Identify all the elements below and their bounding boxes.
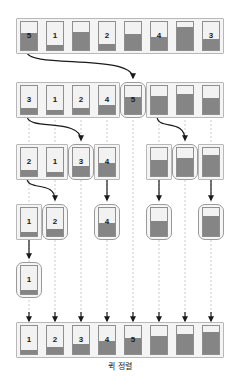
bar-cell: 1 bbox=[20, 207, 38, 237]
bar-fill bbox=[203, 216, 219, 236]
bar-cell bbox=[150, 147, 168, 177]
bar-cell: 4 bbox=[150, 21, 168, 51]
bar-cell bbox=[202, 147, 220, 177]
bar-value-label: 2 bbox=[47, 336, 63, 344]
bar-value-label: 2 bbox=[99, 32, 115, 40]
bar-cell: 2 bbox=[46, 325, 64, 355]
bar-value-label: 1 bbox=[21, 336, 37, 344]
bar-cell bbox=[150, 85, 168, 115]
bar-fill bbox=[177, 27, 193, 50]
bar-cell: 2 bbox=[72, 85, 90, 115]
bar-fill bbox=[73, 166, 89, 176]
bar-value-label: 4 bbox=[99, 336, 115, 344]
bar-fill bbox=[47, 45, 63, 50]
bar-fill bbox=[151, 160, 167, 176]
bar-fill bbox=[203, 39, 219, 50]
bar-cell bbox=[176, 325, 194, 355]
bar-fill bbox=[151, 96, 167, 114]
bar-fill bbox=[47, 172, 63, 176]
bar-value-label: 2 bbox=[47, 218, 63, 226]
bar-fill bbox=[21, 350, 37, 354]
bar-value-label: 1 bbox=[47, 158, 63, 166]
bar-fill bbox=[47, 347, 63, 354]
bar-value-label: 2 bbox=[73, 96, 89, 104]
bar-fill bbox=[21, 108, 37, 114]
bar-cell: 3 bbox=[202, 21, 220, 51]
bar-fill bbox=[99, 44, 115, 50]
bar-cell: 2 bbox=[98, 21, 116, 51]
quicksort-diagram: 51243312452134124112345 퀵 정렬 bbox=[0, 0, 240, 388]
bar-fill bbox=[73, 344, 89, 354]
bar-cell: 3 bbox=[20, 85, 38, 115]
bar-cell: 4 bbox=[98, 147, 116, 177]
bar-value-label: 4 bbox=[151, 32, 167, 40]
bar-fill bbox=[73, 108, 89, 114]
bar-cell bbox=[124, 21, 142, 51]
bar-value-label: 1 bbox=[21, 276, 37, 284]
bar-value-label: 4 bbox=[99, 96, 115, 104]
bar-fill bbox=[203, 155, 219, 176]
bar-cell bbox=[176, 85, 194, 115]
bar-cell bbox=[176, 21, 194, 51]
bar-value-label: 2 bbox=[21, 158, 37, 166]
bar-fill bbox=[47, 110, 63, 114]
bar-cell: 1 bbox=[46, 147, 64, 177]
bar-cell: 3 bbox=[72, 147, 90, 177]
bar-fill bbox=[177, 158, 193, 176]
bar-fill bbox=[151, 336, 167, 354]
bar-fill bbox=[47, 229, 63, 236]
bar-value-label: 1 bbox=[47, 32, 63, 40]
bar-cell bbox=[202, 85, 220, 115]
bar-value-label: 1 bbox=[21, 218, 37, 226]
bar-fill bbox=[99, 105, 115, 114]
bar-cell: 1 bbox=[46, 85, 64, 115]
bar-cell: 1 bbox=[20, 265, 38, 295]
bar-cell: 2 bbox=[46, 207, 64, 237]
bar-value-label: 5 bbox=[125, 336, 141, 344]
bar-value-label: 3 bbox=[21, 96, 37, 104]
bar-value-label: 3 bbox=[203, 32, 219, 40]
bar-fill bbox=[151, 221, 167, 236]
bar-cell bbox=[150, 325, 168, 355]
bar-cell: 2 bbox=[20, 147, 38, 177]
bar-cell: 4 bbox=[98, 207, 116, 237]
bar-fill bbox=[125, 34, 141, 50]
bar-cell bbox=[202, 207, 220, 237]
arrow-pivot-2b bbox=[157, 116, 185, 140]
bar-cell: 5 bbox=[124, 85, 142, 115]
bar-cell: 4 bbox=[98, 325, 116, 355]
bar-cell bbox=[202, 325, 220, 355]
bar-cell: 5 bbox=[20, 21, 38, 51]
bar-cell bbox=[176, 147, 194, 177]
bar-value-label: 3 bbox=[73, 336, 89, 344]
arrow-pivot-2a bbox=[27, 116, 81, 140]
bar-value-label: 5 bbox=[125, 96, 141, 104]
diagram-caption: 퀵 정렬 bbox=[0, 360, 240, 371]
bar-fill bbox=[203, 98, 219, 114]
bar-value-label: 4 bbox=[99, 158, 115, 166]
bar-cell bbox=[72, 21, 90, 51]
arrow-pivot-3a bbox=[27, 178, 55, 200]
bar-fill bbox=[177, 94, 193, 114]
bar-cell bbox=[150, 207, 168, 237]
bar-fill bbox=[21, 170, 37, 176]
bar-fill bbox=[21, 232, 37, 236]
bar-value-label: 5 bbox=[21, 32, 37, 40]
bar-cell: 3 bbox=[72, 325, 90, 355]
bar-value-label: 1 bbox=[47, 96, 63, 104]
bar-cell: 5 bbox=[124, 325, 142, 355]
bar-value-label: 3 bbox=[73, 158, 89, 166]
bar-value-label: 4 bbox=[99, 218, 115, 226]
bar-fill bbox=[177, 334, 193, 354]
bar-fill bbox=[21, 290, 37, 294]
bar-cell: 1 bbox=[46, 21, 64, 51]
bar-cell: 4 bbox=[98, 85, 116, 115]
bar-fill bbox=[203, 332, 219, 354]
bar-fill bbox=[73, 32, 89, 50]
bar-cell: 1 bbox=[20, 325, 38, 355]
arrow-pivot-1 bbox=[27, 52, 133, 78]
